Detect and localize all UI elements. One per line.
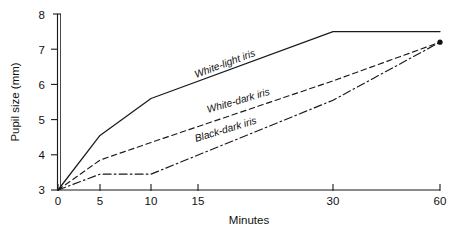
series-label-white-dark-iris: White-dark iris [205,86,271,115]
x-tick-label-5: 5 [97,195,103,207]
x-tick-label-0: 0 [55,195,61,207]
y-tick-label-7: 7 [39,44,45,56]
y-tick-label-8: 8 [39,9,45,21]
y-tick-label-3: 3 [39,184,45,196]
x-tick-label-15: 15 [192,195,205,207]
y-tick-label-4: 4 [39,149,46,161]
x-tick-label-30: 30 [327,195,340,207]
y-tick-label-6: 6 [39,79,45,91]
chart-canvas: 8 7 6 5 4 3 Pupil size (mm) 0 5 10 15 [0,0,456,234]
y-axis-tick-labels: 8 7 6 5 4 3 [39,9,46,197]
x-axis [58,184,441,191]
y-axis [53,14,61,190]
y-axis-title: Pupil size (mm) [9,62,21,141]
x-axis-title: Minutes [229,214,270,226]
endpoint-marker [437,40,442,45]
series-label-black-dark-iris: Black-dark iris [193,115,257,144]
x-axis-tick-labels: 0 5 10 15 30 60 [55,195,447,207]
x-tick-label-60: 60 [434,195,447,207]
x-tick-label-10: 10 [145,195,158,207]
pupil-size-line-chart: 8 7 6 5 4 3 Pupil size (mm) 0 5 10 15 [0,0,456,234]
y-tick-label-5: 5 [39,114,45,126]
